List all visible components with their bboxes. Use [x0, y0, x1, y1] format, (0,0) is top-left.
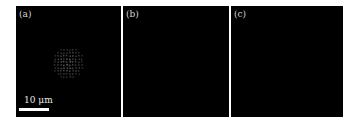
speckle-dot: [78, 67, 80, 69]
speckle-dot: [63, 76, 65, 78]
speckle-dot: [75, 49, 77, 51]
speckle-dot: [54, 58, 56, 60]
panel-label-c: (c): [234, 9, 246, 19]
speckle-dot: [66, 55, 68, 57]
speckle-dot: [72, 70, 74, 72]
speckle-dot: [54, 64, 56, 66]
speckle-dot: [72, 55, 74, 57]
speckle-dot: [78, 73, 80, 75]
speckle-dot: [54, 61, 56, 63]
speckle-dot: [60, 73, 62, 75]
speckle-dot: [63, 61, 65, 63]
speckle-dot: [72, 68, 74, 70]
speckle-dot: [75, 59, 77, 61]
speckle-dot: [66, 61, 68, 63]
speckle-dot: [57, 73, 59, 75]
speckle-dot: [63, 58, 65, 60]
speckle-dot: [72, 64, 74, 66]
speckle-dot: [57, 64, 59, 66]
scale-bar: [19, 108, 49, 111]
speckle-dot: [63, 65, 65, 67]
speckle-dot: [57, 70, 59, 72]
speckle-dot: [57, 61, 59, 63]
panel-a: (a) 10 μm: [16, 6, 121, 117]
speckle-dot: [78, 64, 80, 66]
speckle-dot: [66, 58, 68, 60]
panel-label-a: (a): [19, 9, 31, 19]
speckle-dot: [69, 64, 71, 66]
speckle-dot: [72, 76, 74, 78]
speckle-dot: [69, 52, 71, 54]
speckle-dot: [57, 55, 59, 57]
speckle-dot: [72, 52, 74, 54]
speckle-dot: [75, 67, 77, 69]
speckle-dot: [78, 58, 80, 60]
speckle-dot: [81, 55, 83, 57]
speckle-dot: [75, 55, 77, 57]
speckle-dot: [54, 67, 56, 69]
speckle-dot: [72, 49, 74, 51]
speckle-dot: [81, 61, 83, 63]
speckle-dot: [75, 73, 77, 75]
speckle-dot: [75, 52, 77, 54]
speckle-dot: [67, 67, 69, 69]
speckle-dot: [72, 73, 74, 75]
speckle-dot: [60, 64, 62, 66]
panel-b: (b): [123, 6, 229, 117]
speckle-dot: [66, 64, 68, 66]
speckle-dot: [63, 55, 65, 57]
speckle-dot: [66, 49, 68, 51]
speckle-dot: [70, 76, 72, 78]
speckle-dot: [78, 70, 80, 72]
speckle-dot: [58, 67, 60, 69]
speckle-dot: [78, 55, 80, 57]
speckle-dot: [66, 70, 68, 72]
speckle-dot: [66, 76, 68, 78]
speckle-dot: [81, 67, 83, 69]
speckle-dot: [69, 70, 71, 72]
speckle-dot: [61, 67, 63, 69]
scale-bar-label: 10 μm: [24, 95, 53, 105]
speckle-dot: [60, 61, 62, 63]
speckle-dot: [63, 49, 65, 51]
speckle-dot: [69, 73, 71, 75]
speckle-dot: [66, 52, 68, 54]
speckle-dot: [69, 59, 71, 61]
speckle-dot: [60, 55, 62, 57]
speckle-dot: [78, 61, 80, 63]
speckle-dot: [75, 70, 77, 72]
speckle-dot: [60, 49, 62, 51]
speckle-dot: [69, 49, 71, 51]
speckle-dot: [78, 52, 80, 54]
speckle-dot: [63, 70, 65, 72]
speckle-dot: [58, 58, 60, 60]
speckle-dot: [69, 55, 71, 57]
speckle-dot: [57, 52, 59, 54]
speckle-dot: [72, 61, 74, 63]
speckle-dot: [81, 58, 83, 60]
speckle-dot: [81, 64, 83, 66]
speckle-dot: [63, 53, 65, 55]
panel-label-b: (b): [126, 9, 139, 19]
speckle-dot: [66, 73, 68, 75]
speckle-dot: [75, 64, 77, 66]
speckle-dot: [63, 67, 65, 69]
speckle-dot: [69, 67, 71, 69]
speckle-dot: [72, 58, 74, 60]
panel-c: (c): [231, 6, 343, 117]
speckle-dot: [60, 76, 62, 78]
speckle-dot: [75, 61, 77, 63]
speckle-dot: [55, 55, 57, 57]
speckle-dot: [60, 58, 62, 60]
speckle-dot: [63, 73, 65, 75]
speckle-dot: [60, 70, 62, 72]
speckle-dot: [69, 61, 71, 63]
speckle-dot: [54, 70, 56, 72]
speckle-dot: [61, 53, 63, 55]
